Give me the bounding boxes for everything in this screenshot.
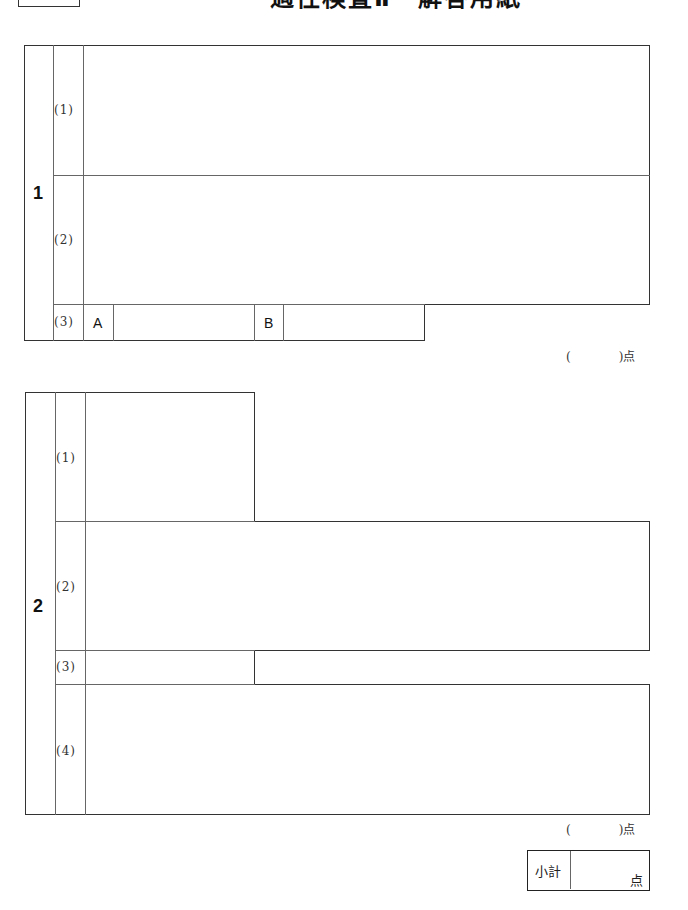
section-1-bottom-border: [24, 340, 425, 341]
section-1-points: ( )点: [566, 347, 635, 364]
section-2-q2-bottom-edge: [254, 650, 650, 651]
answer-area-1-1[interactable]: [84, 46, 649, 174]
question-label: (3): [54, 315, 74, 329]
answer-area-1-3-b[interactable]: [284, 305, 423, 340]
part-label-b: B: [264, 315, 273, 331]
part-label-a: A: [93, 315, 102, 331]
answer-area-2-3[interactable]: [86, 651, 253, 683]
name-field-box[interactable]: [18, 0, 80, 7]
section-1-number-col-divider: [53, 45, 54, 341]
answer-area-2-1[interactable]: [86, 393, 253, 520]
question-label: (1): [54, 103, 74, 117]
answer-area-1-3-a[interactable]: [114, 305, 253, 340]
question-label: (2): [54, 233, 74, 247]
section-number: 2: [33, 596, 43, 617]
section-2-points: ( )点: [566, 820, 635, 837]
answer-area-2-2[interactable]: [86, 522, 648, 649]
section-1-left-border: [24, 45, 25, 341]
section-1-q3-b-left: [254, 304, 255, 341]
question-label: (2): [56, 580, 76, 594]
section-2-q3-right-border: [254, 650, 255, 685]
question-label: (3): [56, 660, 76, 674]
section-1-q2-bottom-edge: [424, 304, 650, 305]
section-2-q4-right-border: [649, 684, 650, 815]
answer-area-1-2[interactable]: [84, 176, 649, 303]
answer-area-2-4[interactable]: [86, 685, 648, 813]
subtotal-box: 小計 点: [527, 850, 650, 891]
question-label: (1): [56, 451, 76, 465]
section-2-left-border: [25, 392, 26, 815]
subtotal-label: 小計: [535, 861, 561, 880]
section-number: 1: [33, 183, 43, 204]
section-2-bottom-border: [25, 814, 650, 815]
page-title: 適性検査Ⅱ 解答用紙: [270, 0, 570, 10]
section-2-q2-right-border: [649, 521, 650, 651]
section-1-q3-right-border: [424, 304, 425, 341]
question-label: (4): [56, 744, 76, 758]
section-2-q1-right-border: [254, 392, 255, 522]
subtotal-unit: 点: [630, 870, 643, 889]
